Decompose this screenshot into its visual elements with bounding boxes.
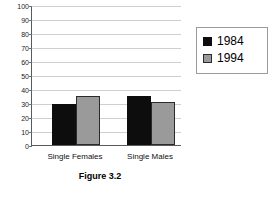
- y-axis-tick-60: 60: [21, 59, 29, 66]
- y-axis-tick-30: 30: [21, 101, 29, 108]
- figure-caption: Figure 3.2: [25, 171, 175, 181]
- bar-group: [52, 6, 100, 145]
- x-axis-label-single-males: Single Males: [108, 152, 192, 161]
- y-axis-tickmark: [29, 146, 32, 147]
- y-axis-tick-100: 100: [17, 3, 29, 10]
- y-axis-tick-90: 90: [21, 17, 29, 24]
- bar-group: [127, 6, 175, 145]
- y-axis-tick-40: 40: [21, 87, 29, 94]
- y-axis-tick-80: 80: [21, 31, 29, 38]
- bar-1984-single-males: [127, 96, 151, 145]
- bar-1994-single-males: [151, 102, 175, 145]
- legend-item: 1984: [203, 33, 261, 50]
- y-axis-tick-70: 70: [21, 45, 29, 52]
- y-axis-tick-20: 20: [21, 115, 29, 122]
- y-axis-tick-10: 10: [21, 129, 29, 136]
- figure-container: 1009080706050403020100 Single FemalesSin…: [0, 0, 278, 197]
- plot-area: [31, 6, 181, 146]
- bar-series-container: [32, 6, 181, 145]
- legend-item: 1994: [203, 50, 261, 67]
- x-axis-label-single-females: Single Females: [33, 152, 117, 161]
- bar-1994-single-females: [76, 96, 100, 145]
- bar-1984-single-females: [52, 104, 76, 145]
- legend-label-1984: 1984: [217, 35, 244, 48]
- chart-plot-wrapper: 1009080706050403020100 Single FemalesSin…: [6, 6, 186, 154]
- chart-legend: 1984 1994: [196, 27, 268, 74]
- legend-swatch-1984-icon: [203, 37, 212, 46]
- legend-label-1994: 1994: [217, 52, 244, 65]
- y-axis-tick-labels: 1009080706050403020100: [6, 6, 31, 146]
- y-axis-tick-50: 50: [21, 73, 29, 80]
- legend-swatch-1994-icon: [203, 54, 212, 63]
